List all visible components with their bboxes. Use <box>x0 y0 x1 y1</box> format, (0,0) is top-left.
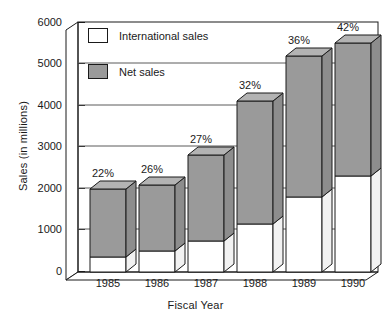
bar-1986[interactable] <box>139 177 185 272</box>
bar-1988[interactable] <box>237 93 283 272</box>
legend-item-net-sales: Net sales <box>88 64 208 79</box>
x-tick-label-1990: 1990 <box>323 277 383 289</box>
bar-annotation-1986: 26% <box>127 163 177 175</box>
bar-1985[interactable] <box>90 181 136 272</box>
legend-label: Net sales <box>119 66 165 78</box>
bar-chart: Sales (in millions) 6000 5000 4000 3000 … <box>0 0 391 323</box>
x-axis-title: Fiscal Year <box>0 299 391 311</box>
bar-1987[interactable] <box>188 147 234 272</box>
bar-annotation-1985: 22% <box>78 167 128 179</box>
white-square-icon <box>88 28 108 43</box>
legend-label: International sales <box>119 30 208 42</box>
bar-annotation-1989: 36% <box>274 34 324 46</box>
bar-1990[interactable] <box>335 35 381 272</box>
bar-annotation-1987: 27% <box>176 133 226 145</box>
bar-annotation-1990: 42% <box>323 21 373 33</box>
legend-item-international-sales: International sales <box>88 28 208 43</box>
chart-legend: International sales Net sales <box>88 28 208 100</box>
bar-annotation-1988: 32% <box>225 79 275 91</box>
bar-1989[interactable] <box>286 48 332 272</box>
gray-square-icon <box>88 64 108 79</box>
